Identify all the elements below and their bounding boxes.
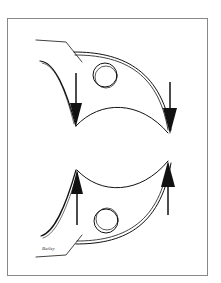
frame <box>8 19 208 276</box>
signature: Bailey <box>42 246 56 251</box>
top-flap <box>36 40 171 133</box>
down-arrow-right <box>163 82 177 134</box>
up-arrow-right <box>161 161 175 215</box>
bottom-flap <box>36 161 171 257</box>
up-arrow-left <box>71 170 83 225</box>
diagram: Bailey <box>0 0 221 283</box>
down-arrow-left <box>70 73 82 126</box>
